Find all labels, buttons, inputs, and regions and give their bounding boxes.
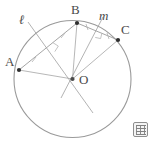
point-dot-o [70, 77, 74, 81]
perpendicular-bisector-line-l [28, 22, 93, 113]
geometry-figure: A B C O ℓ m [0, 0, 153, 142]
radius-oa [19, 70, 73, 79]
right-angle-mark-bc [95, 33, 102, 38]
line-label-l: ℓ [19, 13, 24, 26]
right-angle-mark-ab [53, 43, 59, 52]
line-label-m: m [99, 9, 108, 22]
point-dot-a [17, 68, 21, 72]
point-label-a: A [5, 55, 14, 68]
center-label-o: O [79, 73, 88, 86]
stamp-seal-icon [133, 122, 148, 137]
seal-pattern [136, 125, 146, 135]
point-dot-b [75, 21, 79, 25]
point-label-b: B [71, 3, 80, 16]
radius-ob [73, 23, 78, 79]
point-dot-c [116, 38, 120, 42]
point-label-c: C [121, 23, 130, 36]
chord-ab [19, 23, 77, 70]
